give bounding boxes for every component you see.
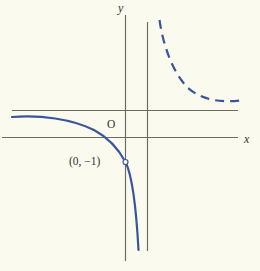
graph-canvas — [0, 0, 260, 271]
y-axis-label: y — [118, 2, 123, 14]
hyperbola-graph-figure: y x O (0, −1) — [0, 0, 260, 271]
point-label-0-minus-1: (0, −1) — [69, 156, 100, 168]
open-circle-marker-point — [123, 160, 128, 165]
figure-background — [0, 0, 260, 271]
origin-label: O — [107, 119, 115, 131]
x-axis-label: x — [244, 133, 249, 145]
